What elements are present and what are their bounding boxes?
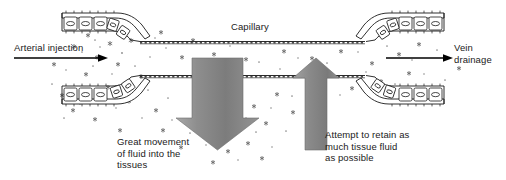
- capillary-fluid-exchange-diagram: Capillary Arterial injection Vein draina…: [0, 0, 506, 180]
- capillary-label: Capillary: [231, 21, 269, 33]
- vessel-wall-bottom-left: [62, 76, 150, 107]
- vein-flow-arrow: [386, 54, 453, 62]
- arterial-flow-arrow: [14, 54, 108, 62]
- arterial-injection-label: Arterial injection: [14, 42, 83, 54]
- vessel-wall-top-left: [62, 11, 150, 42]
- great-movement-label: Great movement of fluid into the tissues: [117, 136, 189, 171]
- vessel-wall-top-right: [356, 11, 444, 42]
- vein-drainage-label: Vein drainage: [454, 42, 492, 65]
- attempt-retain-label: Attempt to retain as much tissue fluid a…: [325, 129, 409, 164]
- vessel-wall-bottom-right: [356, 76, 444, 107]
